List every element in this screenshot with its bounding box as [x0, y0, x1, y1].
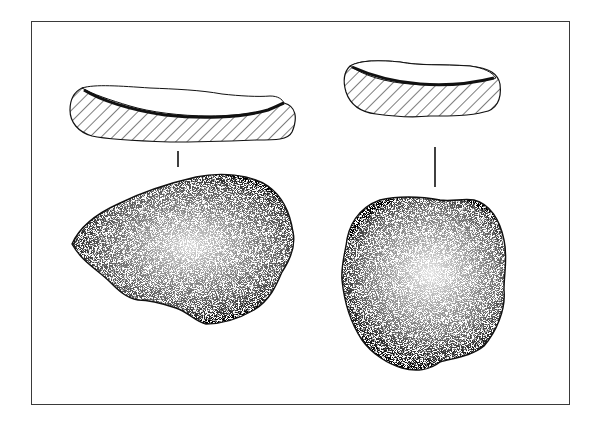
right-plan-view — [335, 190, 522, 380]
right-cross-section — [344, 61, 500, 117]
artifact-drawing — [0, 0, 603, 426]
left-plan-view — [60, 170, 306, 330]
left-cross-section — [70, 86, 295, 142]
